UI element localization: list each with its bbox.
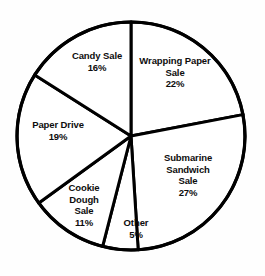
pie-label-value: 19% xyxy=(32,130,84,142)
pie-label-line: Sale xyxy=(139,66,210,78)
pie-label-line: Cookie xyxy=(68,182,99,194)
pie-label-other: Other5% xyxy=(124,217,149,240)
pie-chart: Wrapping PaperSale22%SubmarineSandwichSa… xyxy=(0,0,265,276)
pie-label-line: Sale xyxy=(164,175,212,187)
pie-label-line: Dough xyxy=(68,194,99,206)
pie-label-submarine-sandwich-sale: SubmarineSandwichSale27% xyxy=(164,152,212,198)
pie-label-line: Wrapping Paper xyxy=(139,55,210,67)
pie-label-paper-drive: Paper Drive19% xyxy=(32,119,84,142)
pie-label-line: Sandwich xyxy=(164,164,212,176)
pie-label-value: 16% xyxy=(72,61,122,73)
pie-label-value: 22% xyxy=(139,78,210,90)
pie-label-wrapping-paper-sale: Wrapping PaperSale22% xyxy=(139,55,210,90)
pie-label-line: Candy Sale xyxy=(72,50,122,62)
pie-label-line: Paper Drive xyxy=(32,119,84,131)
pie-label-candy-sale: Candy Sale16% xyxy=(72,50,122,73)
pie-label-cookie-dough-sale: CookieDoughSale11% xyxy=(68,182,99,228)
pie-label-value: 11% xyxy=(68,217,99,229)
pie-label-value: 27% xyxy=(164,187,212,199)
pie-label-value: 5% xyxy=(124,228,149,240)
pie-label-line: Sale xyxy=(68,205,99,217)
pie-label-line: Submarine xyxy=(164,152,212,164)
pie-label-line: Other xyxy=(124,217,149,229)
